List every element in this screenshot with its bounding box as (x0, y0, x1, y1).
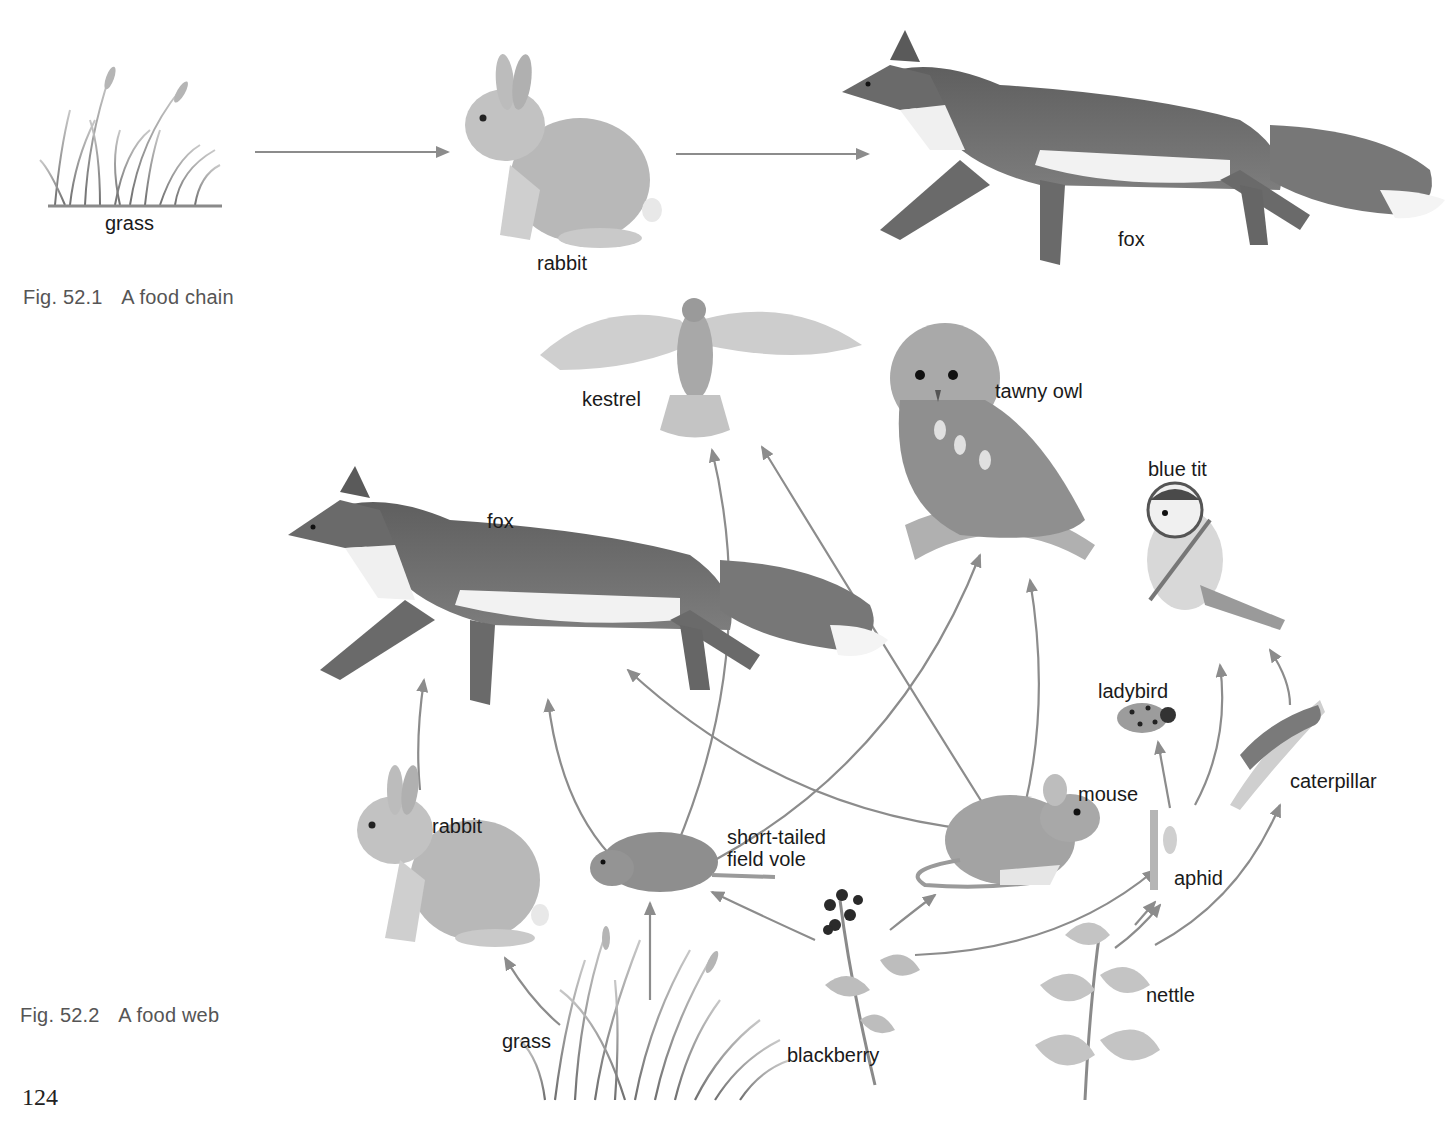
organism-label-grass: grass (105, 212, 154, 234)
arrow-caterpillar-to-bluetit (1270, 650, 1290, 705)
grass-illustration (520, 926, 790, 1100)
organism-label-rabbit: rabbit (432, 815, 482, 837)
arrow-nettle-to-aphid-2 (1115, 905, 1160, 948)
organism-label-vole-line-1: short-tailed (727, 826, 826, 848)
fox-illustration (288, 466, 888, 705)
caterpillar-illustration (1230, 700, 1325, 810)
organism-label-aphid: aphid (1174, 867, 1223, 889)
tawny-owl-illustration (890, 323, 1095, 560)
figure-caption-food-web: Fig. 52.2 A food web (20, 1004, 219, 1027)
figure-number: Fig. 52.1 (23, 286, 103, 308)
rabbit-illustration (465, 53, 662, 248)
blue-tit-illustration (1147, 483, 1285, 630)
arrow-grass-to-rabbit (505, 958, 560, 1025)
organism-label-caterpillar: caterpillar (1290, 770, 1377, 792)
figure-title: A food chain (121, 286, 234, 308)
organism-label-fox: fox (1118, 228, 1145, 250)
aphid-illustration (1150, 810, 1177, 890)
organism-label-grass: grass (502, 1030, 551, 1052)
page-number: 124 (22, 1084, 58, 1111)
arrow-aphid-to-ladybird (1158, 742, 1170, 808)
arrow-vole-to-fox (548, 700, 610, 855)
arrow-blackberry-to-mouse (890, 895, 935, 930)
illustration-layer (0, 0, 1453, 1121)
grass-illustration (40, 65, 222, 206)
organism-label-ladybird: ladybird (1098, 680, 1168, 702)
arrow-mouse-to-fox (628, 670, 975, 830)
organism-label-blackberry: blackberry (787, 1044, 879, 1066)
arrow-blackberry-to-vole (712, 892, 815, 940)
organism-label-kestrel: kestrel (582, 388, 641, 410)
organism-label-rabbit: rabbit (537, 252, 587, 274)
figure-number: Fig. 52.2 (20, 1004, 100, 1026)
organism-label-mouse: mouse (1078, 783, 1138, 805)
arrow-rabbit-to-fox (418, 680, 424, 790)
ladybird-illustration (1117, 703, 1176, 733)
organism-label-blue-tit: blue tit (1148, 458, 1207, 480)
figure-caption-food-chain: Fig. 52.1 A food chain (23, 286, 234, 309)
mouse-illustration (918, 774, 1100, 887)
food-web-figure (288, 298, 1325, 1100)
nettle-illustration (1035, 923, 1160, 1101)
food-chain-figure (40, 30, 1445, 265)
kestrel-illustration (540, 298, 862, 438)
figure-title: A food web (118, 1004, 219, 1026)
organism-label-fox: fox (487, 510, 514, 532)
arrow-aphid-to-bluetit (1195, 665, 1222, 805)
organism-label-tawny-owl: tawny owl (995, 380, 1083, 402)
organism-label-nettle: nettle (1146, 984, 1195, 1006)
organism-label-vole-line-2: field vole (727, 848, 806, 870)
rabbit-illustration (357, 764, 549, 947)
arrow-mouse-to-owl (1025, 580, 1039, 805)
